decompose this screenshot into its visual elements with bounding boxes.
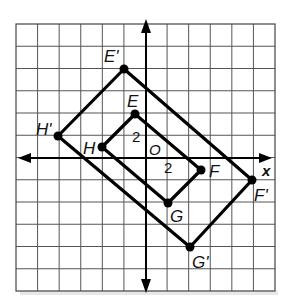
x-axis-left-arrow-icon — [18, 153, 31, 163]
vertex-e-prime — [120, 65, 129, 74]
coordinate-plane-figure: x O 2 2 E' F' G' H' E F G H — [0, 0, 292, 301]
y-tick-label-2: 2 — [132, 128, 140, 145]
label-g-prime: G' — [192, 253, 209, 272]
label-e-prime: E' — [104, 47, 119, 66]
label-h-prime: H' — [36, 120, 52, 139]
x-axis-label: x — [261, 162, 271, 179]
label-f-prime: F' — [254, 186, 268, 205]
origin-label: O — [149, 141, 161, 158]
label-e: E — [127, 92, 139, 111]
label-h: H — [83, 139, 96, 158]
x-tick-label-2: 2 — [164, 159, 172, 176]
vertex-f — [197, 166, 206, 175]
label-f: F — [209, 162, 221, 181]
label-g: G — [170, 207, 183, 226]
vertex-h — [98, 143, 107, 152]
y-axis-up-arrow-icon — [141, 19, 151, 33]
vertex-f-prime — [248, 176, 257, 185]
vertex-g-prime — [186, 243, 195, 252]
vertex-h-prime — [54, 132, 63, 141]
